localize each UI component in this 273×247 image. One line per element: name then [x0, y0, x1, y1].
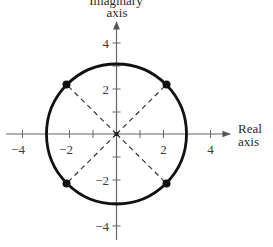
imaginary-axis-label-line2: axis — [107, 5, 128, 20]
point-q3 — [63, 180, 71, 188]
y-tick-label: 4 — [103, 36, 110, 51]
y-tick-label: 2 — [103, 82, 110, 97]
y-tick-label: −2 — [95, 173, 109, 188]
point-q2 — [63, 81, 71, 89]
origin-marker — [115, 132, 119, 136]
x-tick-label: 4 — [207, 142, 214, 157]
x-tick-label: −4 — [11, 142, 25, 157]
x-tick-label: 2 — [160, 142, 167, 157]
point-q4 — [163, 180, 171, 188]
diagram-canvas: Imaginary axis Real axis −4 −2 2 4 4 2 −… — [0, 0, 273, 247]
y-tick-label: −4 — [95, 219, 109, 234]
complex-plane-diagram: Imaginary axis Real axis −4 −2 2 4 4 2 −… — [0, 0, 273, 247]
real-axis-label-line2: axis — [238, 134, 259, 149]
x-tick-label: −2 — [59, 142, 73, 157]
point-q1 — [163, 81, 171, 89]
